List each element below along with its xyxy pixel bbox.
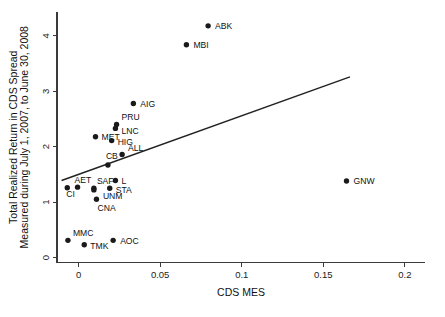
- x-tick-label: 0: [76, 269, 81, 280]
- data-point-label-aet: AET: [75, 175, 92, 185]
- data-point-label-tmk: TMK: [90, 241, 108, 251]
- scatter-plot: 00.050.10.150.201234CDS MESTotal Realize…: [0, 0, 445, 317]
- data-point-cna: [94, 197, 99, 202]
- x-tick-label: 0.2: [398, 269, 411, 280]
- data-point-hig: [109, 138, 114, 143]
- data-point-gnw: [344, 178, 349, 183]
- data-point-mbi: [184, 42, 189, 47]
- y-tick-label: 4: [40, 33, 51, 38]
- data-point-all: [119, 152, 124, 157]
- data-point-label-abk: ABK: [215, 21, 232, 31]
- data-point-label-lnc: LNC: [121, 126, 138, 136]
- x-tick-label: 0.15: [314, 269, 333, 280]
- data-point-abk: [205, 23, 210, 28]
- data-point-label-aig: AIG: [140, 99, 155, 109]
- data-point-label-unm: UNM: [103, 191, 123, 201]
- y-tick-label: 3: [40, 89, 51, 94]
- data-point-mmc: [65, 238, 70, 243]
- y-tick-label: 2: [40, 144, 51, 149]
- data-point-aig: [131, 101, 136, 106]
- x-tick-label: 0.1: [235, 269, 248, 280]
- y-axis-title-line1: Total Realized Return in CDS Spread: [7, 50, 19, 223]
- y-tick-label: 0: [40, 255, 51, 260]
- data-point-label-gnw: GNW: [354, 176, 376, 186]
- data-point-unm: [91, 187, 96, 192]
- data-point-label-cb: CB: [106, 151, 118, 161]
- data-point-label-cna: CNA: [97, 203, 115, 213]
- y-axis-title-line2: Measured during July 1, 2007, to June 30…: [18, 26, 30, 249]
- data-point-tmk: [82, 242, 87, 247]
- y-tick-label: 1: [40, 199, 51, 204]
- data-point-label-pru: PRU: [122, 112, 140, 122]
- data-point-cb: [105, 162, 110, 167]
- chart-figure: 00.050.10.150.201234CDS MESTotal Realize…: [0, 0, 445, 317]
- x-tick-label: 0.05: [151, 269, 170, 280]
- data-point-label-ci: CI: [66, 189, 75, 199]
- data-point-label-aoc: AOC: [120, 236, 139, 246]
- data-point-aet: [75, 184, 80, 189]
- data-point-label-mmc: MMC: [73, 228, 94, 238]
- data-point-aoc: [110, 238, 115, 243]
- data-point-label-all: ALL: [128, 143, 144, 153]
- x-axis-title: CDS MES: [217, 286, 265, 298]
- data-point-label-saf: SAF: [97, 176, 114, 186]
- data-point-lnc: [113, 126, 118, 131]
- data-point-label-l: L: [121, 176, 126, 186]
- data-point-met: [93, 134, 98, 139]
- data-point-label-mbi: MBI: [193, 40, 208, 50]
